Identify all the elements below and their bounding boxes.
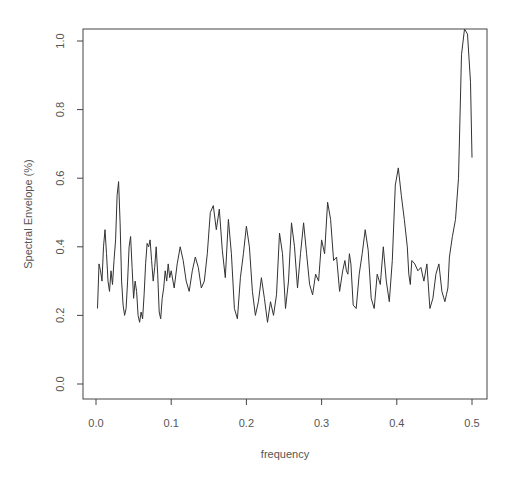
y-tick-label: 0.2 bbox=[54, 308, 66, 323]
x-tick-label: 0.2 bbox=[239, 417, 254, 429]
y-tick-label: 0.6 bbox=[54, 171, 66, 186]
x-tick-label: 0.3 bbox=[314, 417, 329, 429]
y-tick-label: 0.8 bbox=[54, 102, 66, 117]
x-tick-label: 0.0 bbox=[88, 417, 103, 429]
x-axis-title: frequency bbox=[261, 448, 310, 460]
x-tick-label: 0.4 bbox=[389, 417, 404, 429]
x-tick-label: 0.5 bbox=[464, 417, 479, 429]
spectral-envelope-chart: 0.00.10.20.30.40.5 0.00.20.40.60.81.0 fr… bbox=[0, 0, 517, 483]
y-tick-label: 0.4 bbox=[54, 239, 66, 254]
x-tick-label: 0.1 bbox=[164, 417, 179, 429]
y-tick-label: 0.0 bbox=[54, 376, 66, 391]
chart-background bbox=[0, 0, 517, 483]
y-tick-label: 1.0 bbox=[54, 33, 66, 48]
y-axis-title: Spectral Envelope (%) bbox=[22, 159, 34, 268]
